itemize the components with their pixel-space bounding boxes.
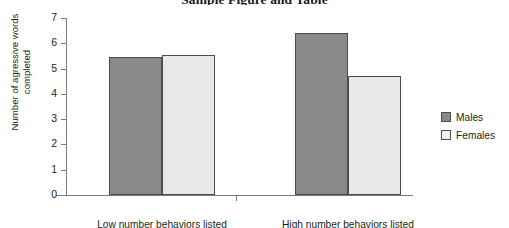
- category-label-high: High number behaviors listed: [248, 218, 448, 228]
- legend-label-males: Males: [456, 111, 483, 124]
- y-tick-5: 5: [61, 69, 66, 70]
- y-tick-1: 1: [61, 170, 66, 171]
- y-axis-title: Number of agressive words completed: [9, 0, 39, 147]
- x-axis-line: [56, 195, 413, 196]
- bar-males-low: [109, 57, 162, 195]
- y-tick-0: 0: [61, 195, 66, 196]
- chart-title: Sample Figure and Table: [0, 0, 509, 5]
- legend-item-males: Males: [441, 108, 509, 126]
- chart-legend: Males Females: [441, 108, 509, 144]
- y-tick-3: 3: [61, 119, 66, 120]
- x-tick-separator: [236, 195, 237, 201]
- y-tick-7: 7: [61, 18, 66, 19]
- bar-chart-figure: Sample Figure and Table Number of agress…: [0, 0, 509, 228]
- y-tick-label-6: 6: [37, 36, 57, 49]
- y-tick-label-4: 4: [37, 87, 57, 100]
- bar-males-high: [295, 33, 348, 195]
- legend-item-females: Females: [441, 126, 509, 144]
- y-axis-title-line-1: Number of agressive words: [9, 0, 21, 147]
- plot-area: 0 1 2 3 4 5 6 7 Low number beh: [66, 18, 413, 195]
- y-tick-label-0: 0: [37, 188, 57, 201]
- legend-swatch-females-icon: [441, 130, 451, 140]
- category-label-low: Low number behaviors listed: [62, 218, 262, 228]
- y-tick-label-2: 2: [37, 137, 57, 150]
- bar-females-low: [162, 55, 215, 195]
- y-tick-label-1: 1: [37, 163, 57, 176]
- y-tick-label-5: 5: [37, 62, 57, 75]
- legend-swatch-males-icon: [441, 112, 451, 122]
- y-tick-6: 6: [61, 43, 66, 44]
- legend-label-females: Females: [456, 129, 495, 142]
- y-tick-label-3: 3: [37, 112, 57, 125]
- y-tick-2: 2: [61, 144, 66, 145]
- y-tick-4: 4: [61, 94, 66, 95]
- bar-females-high: [348, 76, 401, 195]
- y-tick-label-7: 7: [37, 11, 57, 24]
- y-axis-title-line-2: completed: [21, 0, 33, 147]
- y-axis-line: [66, 18, 67, 195]
